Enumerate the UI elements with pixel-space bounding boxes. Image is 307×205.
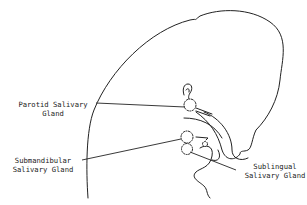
sublingual-label-line2: Salivary Gland	[240, 171, 307, 180]
sublingual-leader	[190, 152, 236, 170]
sublingual-gland-small	[203, 142, 208, 147]
submandibular-label-line2: Salivary Gland	[6, 165, 80, 174]
parotid-gland	[184, 99, 196, 111]
sublingual-label-line1: Sublingual	[240, 162, 307, 171]
submandibular-duct	[196, 137, 208, 140]
parotid-leader	[96, 103, 185, 107]
parotid-label-line2: Gland	[9, 109, 97, 118]
jaw-curve	[212, 150, 220, 161]
ear-icon	[183, 84, 192, 101]
submandibular-label-line1: Submandibular	[6, 156, 80, 165]
sublingual-gland-label: Sublingual Salivary Gland	[240, 162, 307, 180]
sublingual-gland	[182, 144, 193, 155]
palate	[204, 112, 248, 160]
tongue-lower	[194, 146, 212, 198]
submandibular-leader	[82, 139, 181, 160]
parotid-label-line1: Parotid Salivary	[9, 100, 97, 109]
parotid-gland-label: Parotid Salivary Gland	[9, 100, 97, 118]
submandibular-gland	[181, 131, 193, 143]
submandibular-gland-label: Submandibular Salivary Gland	[6, 156, 80, 174]
